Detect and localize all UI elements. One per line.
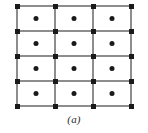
figure-container: (a)	[0, 0, 148, 133]
lattice-node	[53, 54, 58, 59]
lattice-node	[15, 4, 20, 9]
lattice-node	[129, 29, 134, 34]
lattice-node	[129, 104, 134, 109]
cell-center-dot	[110, 91, 115, 96]
lattice-node	[15, 79, 20, 84]
cell-center-dot	[110, 41, 115, 46]
cell-center-dot	[110, 16, 115, 21]
lattice-node	[53, 79, 58, 84]
cell-center-dot	[34, 66, 39, 71]
lattice-node	[15, 29, 20, 34]
lattice-node	[53, 29, 58, 34]
cell-center-dot	[110, 66, 115, 71]
lattice-node	[129, 4, 134, 9]
figure-caption: (a)	[0, 112, 148, 126]
cell-center-dot	[72, 91, 77, 96]
lattice-node	[15, 54, 20, 59]
lattice-grid-diagram	[0, 0, 148, 115]
lattice-node	[91, 4, 96, 9]
lattice-node	[129, 54, 134, 59]
lattice-node	[91, 104, 96, 109]
cell-center-dot	[72, 66, 77, 71]
cell-center-dot	[72, 16, 77, 21]
cell-center-dot	[34, 16, 39, 21]
lattice-node	[91, 79, 96, 84]
lattice-node	[53, 4, 58, 9]
cell-center-dot	[34, 41, 39, 46]
cell-center-dot	[34, 91, 39, 96]
lattice-node	[53, 104, 58, 109]
lattice-node	[91, 29, 96, 34]
lattice-node	[129, 79, 134, 84]
cell-center-dot	[72, 41, 77, 46]
lattice-node	[15, 104, 20, 109]
lattice-node	[91, 54, 96, 59]
